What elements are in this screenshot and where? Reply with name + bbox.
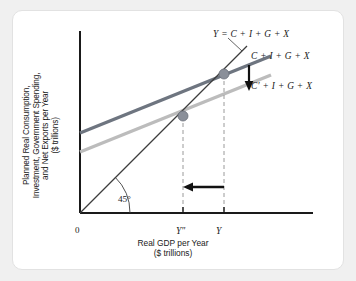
series-label-ae-shifted: C′ + I + G + X	[251, 81, 312, 92]
y-axis-title-line-3: and Net Exports per Year	[41, 50, 51, 220]
series-line-ae-shifted	[80, 75, 271, 152]
angle-label-45-degrees: 45°	[118, 194, 131, 205]
series-label-45-degree: Y = C + I + G + X	[213, 29, 289, 40]
plot-area: Planned Real Consumption, Investment, Go…	[13, 11, 345, 271]
y-axis-title-line-2: Investment, Government Spending,	[31, 50, 41, 220]
x-axis-title: Real GDP per Year ($ trillions)	[73, 239, 273, 259]
equilibrium-point-initial	[219, 69, 229, 79]
x-tick-label-y: Y	[216, 226, 221, 237]
leftward-output-arrow	[183, 182, 224, 191]
equilibrium-point-new	[178, 111, 188, 121]
series-line-ae	[80, 56, 271, 133]
y-axis-title-line-1: Planned Real Consumption,	[22, 50, 32, 220]
x-axis-title-line-2: ($ trillions)	[73, 249, 273, 259]
origin-label: 0	[75, 225, 80, 236]
series-label-ae: C + I + G + X	[251, 51, 310, 62]
figure-card: Planned Real Consumption, Investment, Go…	[12, 10, 344, 270]
y-axis-title: Planned Real Consumption, Investment, Go…	[22, 50, 61, 220]
y-axis-title-line-4: ($ trillions)	[51, 50, 61, 220]
x-tick-label-y-double-prime: Y″	[176, 226, 185, 237]
